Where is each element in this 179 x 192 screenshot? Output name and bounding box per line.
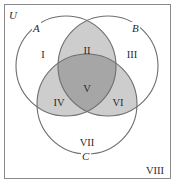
region-vi-label: VI — [112, 97, 124, 108]
set-c-label: C — [82, 150, 90, 162]
region-viii-label: VIII — [146, 165, 165, 176]
universe-label: U — [9, 9, 18, 21]
region-i-label: I — [41, 49, 45, 60]
set-b-label: B — [132, 22, 139, 34]
set-a-label: A — [32, 22, 40, 34]
region-ii-label: II — [84, 45, 91, 56]
region-iv-label: IV — [53, 97, 64, 108]
region-iii-label: III — [127, 49, 138, 60]
venn-diagram: U A B C I II III IV V VI VII VIII — [0, 0, 179, 192]
region-vii-label: VII — [80, 137, 95, 148]
region-v-label: V — [83, 83, 91, 94]
